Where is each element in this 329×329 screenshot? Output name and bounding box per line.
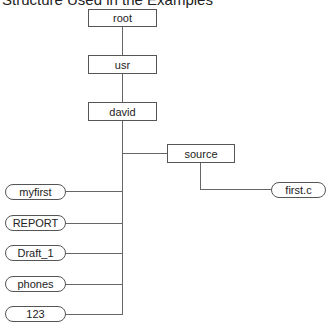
connector-myfirst xyxy=(65,191,122,192)
file-first-c: first.c xyxy=(271,182,326,198)
connector-123 xyxy=(65,314,122,315)
directory-root-label: root xyxy=(113,12,132,24)
file-phones-label: phones xyxy=(17,278,53,290)
connector-source-firstc xyxy=(200,189,271,190)
file-first-c-label: first.c xyxy=(285,184,311,196)
connector-usr-david xyxy=(122,73,123,102)
file-myfirst: myfirst xyxy=(5,184,66,200)
file-draft-1-label: Draft_1 xyxy=(17,247,53,259)
connector-root-usr xyxy=(122,26,123,55)
connector-report xyxy=(65,223,122,224)
directory-david: david xyxy=(88,102,157,121)
file-123: 123 xyxy=(5,306,66,322)
file-report-label: REPORT xyxy=(13,217,59,229)
connector-draft1 xyxy=(65,253,122,254)
directory-usr: usr xyxy=(88,55,157,74)
directory-root: root xyxy=(88,9,157,27)
file-123-label: 123 xyxy=(26,308,44,320)
directory-david-label: david xyxy=(109,106,135,118)
connector-david-trunk xyxy=(122,120,123,315)
connector-phones xyxy=(65,284,122,285)
directory-source-label: source xyxy=(184,148,217,160)
diagram-title: Structure Used in the Examples xyxy=(2,0,213,8)
directory-source: source xyxy=(167,144,235,163)
directory-usr-label: usr xyxy=(115,59,130,71)
file-phones: phones xyxy=(5,276,66,292)
connector-source-down xyxy=(200,162,201,190)
connector-david-source xyxy=(122,153,167,154)
file-draft-1: Draft_1 xyxy=(5,245,66,261)
file-report: REPORT xyxy=(5,215,66,231)
file-myfirst-label: myfirst xyxy=(19,186,51,198)
